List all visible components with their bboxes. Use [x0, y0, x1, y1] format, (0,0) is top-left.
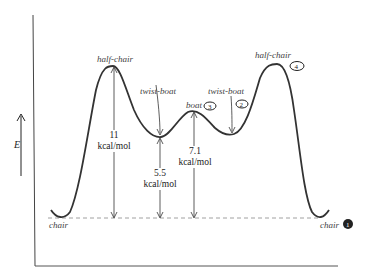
label-half-chair-left: half-chair [97, 54, 133, 64]
label-boat: boat [186, 100, 202, 110]
svg-text:3: 3 [208, 103, 212, 111]
svg-text:4: 4 [295, 63, 299, 71]
twist-boat-right-pointer [231, 96, 232, 131]
energy-value-11: 11 kcal/mol [92, 130, 136, 152]
y-axis [33, 15, 35, 266]
label-half-chair-right: half-chair [255, 50, 291, 60]
energy-value-7.1: 7.1 kcal/mol [171, 146, 219, 168]
svg-text:2: 2 [240, 101, 244, 109]
label-chair-right: chair [320, 220, 339, 230]
label-twist-boat-left: twist-boat [140, 86, 176, 96]
svg-text:1: 1 [346, 221, 350, 229]
energy-value-5.5: 5.5 kcal/mol [136, 168, 184, 190]
label-twist-boat-right: twist-boat [208, 86, 244, 96]
axis-label-e: E [14, 139, 20, 150]
energy-diagram: 3 2 4 1 [0, 0, 373, 277]
label-chair-left: chair [49, 220, 68, 230]
